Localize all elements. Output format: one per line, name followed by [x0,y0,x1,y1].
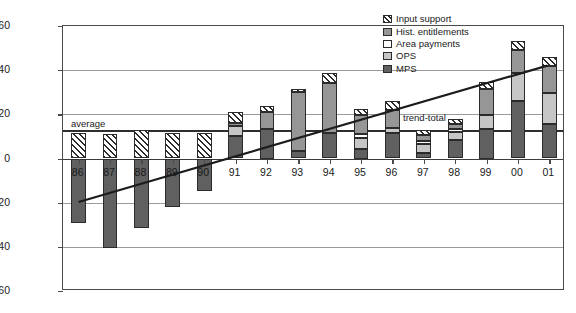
x-axis-tick-label: 99 [480,166,492,178]
x-axis-tick-label: 86 [72,166,84,178]
chart-legend: Input supportHist. entitlementsArea paym… [383,13,503,75]
x-axis-tick-label: 96 [386,166,398,178]
x-axis-tick-label: 00 [511,166,523,178]
x-axis-tick-mark [392,159,393,164]
x-axis-tick-mark [110,159,111,164]
y-axis-tick-label: −60 [0,285,10,295]
x-axis-tick-label: 94 [323,166,335,178]
legend-item[interactable]: Input support [383,13,503,25]
y-axis-tick-label: 60 [0,20,10,30]
x-axis-tick-mark [487,159,488,164]
legend-item-label: OPS [396,51,416,61]
x-axis-tick-mark [204,159,205,164]
mid-gray-swatch-icon [383,28,392,36]
average-annotation-label: average [71,118,105,129]
x-axis-tick-label: 91 [229,166,241,178]
x-axis-tick-label: 93 [291,166,303,178]
legend-item[interactable]: OPS [383,50,503,62]
x-axis-tick-mark [455,159,456,164]
x-axis-tick-label: 89 [166,166,178,178]
protection-percent-stacked-bar-chart: Protection (percent) 6040200−20−40−60 av… [0,0,576,313]
y-axis-tick-label: −20 [0,197,10,207]
x-axis-tick-label: 90 [197,166,209,178]
x-axis-tick-label: 98 [448,166,460,178]
x-axis-tick-mark [267,159,268,164]
legend-item[interactable]: MPS [383,63,503,75]
x-axis-tick-mark [141,159,142,164]
legend-item-label: Input support [396,14,451,24]
x-axis-tick-mark [236,159,237,164]
legend-item-label: Area payments [396,39,460,49]
x-axis-tick-label: 88 [135,166,147,178]
y-axis-tick-label: 0 [0,153,10,163]
x-axis-tick-mark [330,159,331,164]
light-gray-swatch-icon [383,52,392,60]
x-axis-tick-mark [79,159,80,164]
white-swatch-icon [383,40,392,48]
x-axis-tick-mark [173,159,174,164]
hatched-swatch-icon [383,15,392,23]
y-axis-tick-label: 40 [0,64,10,74]
legend-item[interactable]: Area payments [383,38,503,50]
x-axis-tick-label: 92 [260,166,272,178]
x-axis-tick-label: 01 [542,166,554,178]
y-axis-tick-label: 20 [0,108,10,118]
legend-item[interactable]: Hist. entitlements [383,25,503,37]
y-axis-tick-label: −40 [0,241,10,251]
x-axis-tick-mark [361,159,362,164]
x-axis-tick-label: 97 [417,166,429,178]
x-axis-tick-label: 87 [103,166,115,178]
x-axis-tick-mark [549,159,550,164]
legend-item-label: Hist. entitlements [396,27,469,37]
y-axis-tick-mark [58,291,63,292]
legend-item-label: MPS [396,64,417,74]
dark-gray-swatch-icon [383,65,392,73]
trend-total-annotation-label: trend-total [403,112,446,123]
x-axis-tick-mark [424,159,425,164]
x-axis-tick-mark [518,159,519,164]
x-axis-tick-label: 95 [354,166,366,178]
x-axis-tick-mark [298,159,299,164]
